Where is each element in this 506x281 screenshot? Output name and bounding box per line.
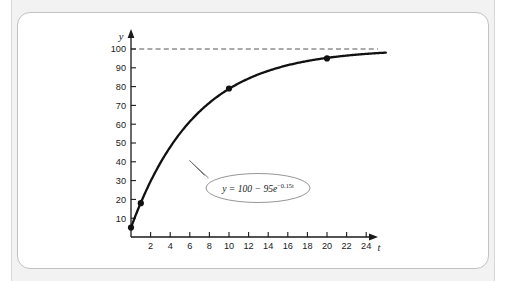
y-tick-label: 40 [116,157,126,167]
y-tick-label: 80 [116,82,126,92]
y-tick-label: 30 [116,176,126,186]
x-tick-label: 4 [168,241,173,251]
y-axis-arrowhead [128,29,135,38]
x-tick-label: 12 [243,241,253,251]
y-tick-label: 70 [116,101,126,111]
equation-main: y = 100 − 95e [221,183,278,194]
y-tick-label: 100 [111,44,126,54]
data-point [138,200,144,206]
x-tick-label: 24 [361,241,371,251]
x-tick-label: 14 [263,241,273,251]
x-tick-label: 2 [148,241,153,251]
y-tick-label: 10 [116,214,126,224]
x-axis-label: t [378,242,382,253]
y-axis-tick-labels: 100 90 80 70 60 50 40 30 20 10 [111,44,126,223]
chart-figure: 100 90 80 70 60 50 40 30 20 10 [18,13,490,270]
y-tick-label: 60 [116,120,126,130]
data-point-group [128,55,330,230]
equation-exponent: −0.15t [277,182,294,189]
page-gutter-right [494,0,506,281]
y-axis-label: y [118,31,124,42]
y-tick-label: 90 [116,63,126,73]
x-tick-label: 22 [341,241,351,251]
x-axis-arrowhead [369,234,378,241]
x-tick-label: 10 [224,241,234,251]
x-tick-label: 16 [283,241,293,251]
page-gutter-left [0,0,12,281]
data-point [324,55,330,61]
data-point [226,85,232,91]
data-point [128,225,134,231]
x-tick-label: 18 [302,241,312,251]
x-axis-ticks [151,232,367,237]
y-tick-label: 20 [116,195,126,205]
x-axis-tick-labels: 2 4 6 8 10 12 14 16 18 20 22 24 [148,241,371,251]
y-tick-label: 50 [116,138,126,148]
x-tick-label: 20 [322,241,332,251]
x-tick-label: 6 [187,241,192,251]
figure-card: 100 90 80 70 60 50 40 30 20 10 [17,12,489,269]
page-background: 100 90 80 70 60 50 40 30 20 10 [0,0,506,281]
x-tick-label: 8 [207,241,212,251]
y-axis-ticks [131,49,136,218]
callout-leader-line [190,161,209,179]
